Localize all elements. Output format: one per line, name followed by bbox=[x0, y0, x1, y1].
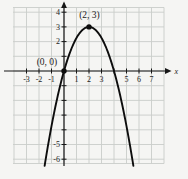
y-tick-label: 3 bbox=[56, 23, 60, 32]
x-tick-label: 5 bbox=[125, 75, 129, 84]
x-tick-label: 6 bbox=[137, 75, 141, 84]
graph-figure: x-3-2-1123567432-5-6(0, 0)(2, 3) bbox=[0, 0, 188, 179]
x-tick-label: -2 bbox=[36, 75, 43, 84]
x-tick-label: 3 bbox=[100, 75, 104, 84]
point-marker bbox=[61, 68, 66, 73]
y-tick-label: 2 bbox=[56, 37, 60, 46]
y-tick-label: -6 bbox=[53, 155, 60, 164]
point-label: (2, 3) bbox=[79, 10, 100, 21]
x-tick-label: -3 bbox=[23, 75, 30, 84]
x-tick-label: 7 bbox=[150, 75, 154, 84]
parabola-graph: x-3-2-1123567432-5-6(0, 0)(2, 3) bbox=[0, 0, 188, 179]
x-tick-label: 2 bbox=[87, 75, 91, 84]
x-axis-label: x bbox=[174, 67, 179, 76]
x-tick-label: 1 bbox=[75, 75, 79, 84]
y-tick-label: -5 bbox=[53, 140, 60, 149]
y-tick-label: 4 bbox=[56, 8, 60, 17]
point-marker bbox=[86, 24, 91, 29]
point-label: (0, 0) bbox=[37, 57, 58, 68]
x-tick-label: -1 bbox=[48, 75, 55, 84]
